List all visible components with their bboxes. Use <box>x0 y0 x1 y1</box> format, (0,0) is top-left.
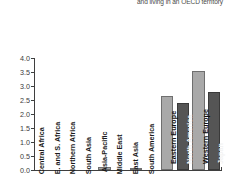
category-label: Western Europe <box>202 109 209 164</box>
x-axis-line <box>34 170 222 171</box>
y-axis-tick-label: 4.0 <box>20 54 30 63</box>
y-axis-tick <box>31 86 34 87</box>
chart-title-clipped: and living in an OECD territory <box>0 0 229 9</box>
y-axis-tick-label: 2.0 <box>20 110 30 119</box>
y-axis-tick-label: 1.0 <box>20 138 30 147</box>
category-label: Asia-Pacific <box>100 131 107 172</box>
y-axis-tick-label: 0.0 <box>20 166 30 175</box>
bar-chart-figure: and living in an OECD territory 0.00.51.… <box>0 0 229 181</box>
plot-area: 0.00.51.01.52.02.53.03.54.0 Central Afri… <box>34 58 222 171</box>
y-axis-line <box>34 58 35 171</box>
category-label: North America <box>186 115 193 164</box>
y-axis-tick-label: 3.0 <box>20 82 30 91</box>
chart-title-text: and living in an OECD territory <box>137 0 223 6</box>
y-axis-tick-label: 1.5 <box>20 124 30 133</box>
y-axis-tick <box>31 128 34 129</box>
category-label: Central Africa <box>38 127 45 174</box>
y-axis-tick <box>31 100 34 101</box>
y-axis-tick-label: 3.5 <box>20 68 30 77</box>
y-axis-tick <box>31 114 34 115</box>
category-label: South Asia <box>85 137 92 174</box>
y-axis-tick-label: 0.5 <box>20 152 30 161</box>
category-label: East Asia <box>132 142 139 174</box>
category-label: Northern Africa <box>69 122 76 174</box>
category-label: South America <box>147 124 154 174</box>
x-axis-right-endcap <box>221 167 222 171</box>
category-label: E. and S. Africa <box>53 122 60 174</box>
y-axis-tick <box>31 72 34 73</box>
category-label: Eastern Europe <box>170 111 177 164</box>
x-axis-left-endcap <box>34 167 35 171</box>
y-axis-tick <box>31 142 34 143</box>
y-axis-tick <box>31 156 34 157</box>
y-axis-tick-label: 2.5 <box>20 96 30 105</box>
category-label: Middle East <box>116 134 123 174</box>
y-axis-tick <box>31 170 34 171</box>
y-axis-tick <box>31 58 34 59</box>
category-label: Japan <box>217 143 224 164</box>
